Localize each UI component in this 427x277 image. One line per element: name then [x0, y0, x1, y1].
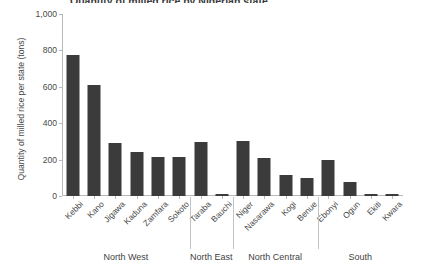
x-axis-label: Sokoto — [166, 199, 192, 225]
bar-slot — [233, 14, 254, 196]
bar[interactable] — [322, 160, 335, 196]
bar-slot — [360, 14, 381, 196]
plot-area: 02004006008001,000 — [62, 14, 403, 196]
x-axis-label: Ogun — [340, 199, 362, 221]
bar-slot — [190, 14, 211, 196]
group-label: North West — [104, 252, 149, 262]
bar[interactable] — [237, 141, 250, 197]
bar[interactable] — [151, 157, 164, 196]
bar-slot — [318, 14, 339, 196]
bar[interactable] — [258, 158, 271, 196]
bar[interactable] — [130, 152, 143, 196]
bar-slot — [83, 14, 104, 196]
bar-slot — [126, 14, 147, 196]
bar[interactable] — [279, 175, 292, 196]
chart-title-clipped: Quantity of milled rice by Nigerian stat… — [70, 0, 290, 3]
group-label: North Central — [248, 252, 302, 262]
bar[interactable] — [173, 157, 186, 196]
bar-slot — [382, 14, 403, 196]
x-axis-label: Kebbi — [63, 199, 85, 221]
x-axis-label: Taraba — [187, 199, 212, 224]
group-separator — [233, 197, 234, 249]
group-separator — [318, 197, 319, 249]
bar-slot — [62, 14, 83, 196]
bar-slot — [275, 14, 296, 196]
y-tick-label: 200 — [43, 155, 57, 165]
x-axis-label: Bauchi — [209, 199, 234, 224]
group-label: South — [349, 252, 373, 262]
bar-slot — [105, 14, 126, 196]
bar-slot — [169, 14, 190, 196]
y-tick-label: 0 — [52, 191, 57, 201]
y-tick-label: 1,000 — [35, 9, 57, 19]
bar-slot — [254, 14, 275, 196]
bar-slot — [339, 14, 360, 196]
bar-chart-figure: Quantity of milled rice by Nigerian stat… — [0, 0, 427, 277]
group-label: North East — [190, 252, 233, 262]
group-separator — [190, 197, 191, 249]
y-axis-title: Quantity of milled rice per state (tons) — [16, 11, 26, 207]
bar-series — [62, 14, 403, 196]
bar[interactable] — [109, 143, 122, 196]
chart-title-text: Quantity of milled rice by Nigerian stat… — [70, 0, 268, 3]
bar[interactable] — [87, 85, 100, 196]
bar[interactable] — [343, 182, 356, 196]
x-axis-label: Kwara — [381, 199, 405, 223]
bar-slot — [296, 14, 317, 196]
y-tick-label: 600 — [43, 82, 57, 92]
bar-slot — [147, 14, 168, 196]
bar-slot — [211, 14, 232, 196]
bar[interactable] — [194, 142, 207, 196]
bar[interactable] — [301, 178, 314, 196]
y-tick-label: 400 — [43, 118, 57, 128]
x-axis-label: Ebonyi — [315, 199, 340, 224]
bar[interactable] — [66, 55, 79, 196]
y-tick-label: 800 — [43, 45, 57, 55]
x-axis-label: Benue — [295, 199, 319, 223]
